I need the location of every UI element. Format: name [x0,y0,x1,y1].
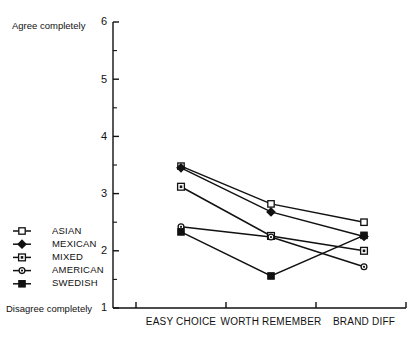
legend-item-mixed[interactable]: MIXED [13,251,83,262]
legend-item-asian[interactable]: ASIAN [13,225,82,236]
x-axis-category-labels: EASY CHOICEWORTH REMEMBERBRAND DIFF [146,316,395,327]
legend-label-mixed: MIXED [52,251,83,262]
y-tick-label-2: 2 [101,244,107,256]
chart-figure: 123456 EASY CHOICEWORTH REMEMBERBRAND DI… [0,0,418,340]
legend-item-american[interactable]: AMERICAN [13,264,104,275]
legend-item-mexican[interactable]: MEXICAN [13,238,97,249]
legend-marker-asian [19,228,25,234]
series-layer [177,163,368,279]
datapoint-mexican-1 [267,208,275,216]
x-axis-ticks [136,302,406,308]
axis-top-anchor-label: Agree completely [12,20,86,31]
datapoint-asian-1 [268,201,274,207]
legend-label-mexican: MEXICAN [52,238,97,249]
datapoint-swedish-1 [268,273,274,279]
datapoint-mixed-0-center [180,185,183,188]
x-category-label-2: BRAND DIFF [333,316,395,327]
datapoint-asian-2 [361,219,367,225]
legend-label-swedish: SWEDISH [52,277,98,288]
datapoint-swedish-0 [178,229,184,235]
x-category-label-1: WORTH REMEMBER [221,316,322,327]
datapoint-american-2-center [363,266,365,268]
y-tick-label-3: 3 [101,187,107,199]
datapoint-american-1-center [270,236,272,238]
y-axis-ticks [113,22,119,308]
legend-marker-swedish [19,281,25,287]
x-category-label-0: EASY CHOICE [146,316,216,327]
datapoint-mixed-2-center [363,250,366,253]
chart-legend: ASIANMEXICANMIXEDAMERICANSWEDISH [13,225,104,289]
y-tick-label-6: 6 [101,15,107,27]
line-chart: 123456 EASY CHOICEWORTH REMEMBERBRAND DI… [0,0,418,340]
y-tick-label-4: 4 [101,130,107,142]
series-line-mixed [181,187,364,251]
y-tick-label-1: 1 [101,301,107,313]
legend-marker-american-center [21,270,23,272]
legend-item-swedish[interactable]: SWEDISH [13,277,98,288]
y-tick-label-5: 5 [101,73,107,85]
axis-bottom-anchor-label: Disagree completely [6,303,92,314]
datapoint-swedish-2 [361,232,367,238]
series-asian [178,163,367,225]
legend-marker-mixed-center [21,256,24,259]
datapoint-american-0-center [180,226,182,228]
legend-label-asian: ASIAN [52,225,82,236]
legend-marker-mexican [18,240,26,248]
legend-label-american: AMERICAN [52,264,104,275]
